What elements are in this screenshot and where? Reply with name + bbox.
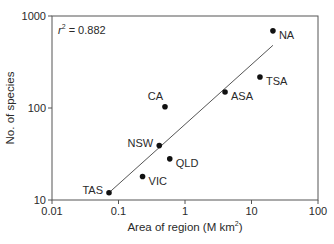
x-tick-label: 10 <box>245 205 257 217</box>
x-tick-label: 0.1 <box>111 205 126 217</box>
point-label: ASA <box>231 90 254 102</box>
data-point-ca: CA <box>148 90 168 110</box>
x-tick-label: 100 <box>309 205 327 217</box>
point-label: CA <box>148 90 164 102</box>
point-label: TSA <box>266 75 288 87</box>
point-label: VIC <box>149 175 167 187</box>
data-point-vic: VIC <box>140 174 167 187</box>
plot-border <box>52 16 318 200</box>
y-axis-label: No. of species <box>4 71 16 144</box>
point-marker <box>270 28 276 34</box>
point-label: QLD <box>176 157 199 169</box>
point-label: TAS <box>82 184 103 196</box>
point-marker <box>167 156 173 162</box>
x-axis-label: Area of region (M km2) <box>127 220 242 233</box>
axis-ticks: 0.010.1110100101001000 <box>22 10 328 217</box>
x-tick-label: 1 <box>182 205 188 217</box>
point-marker <box>162 104 168 110</box>
point-marker <box>106 190 112 196</box>
x-tick-label: 0.01 <box>41 205 62 217</box>
point-marker <box>257 74 263 80</box>
scatter-chart: 0.010.1110100101001000 TASVICNSWQLDCAASA… <box>0 0 334 244</box>
data-point-nsw: NSW <box>128 137 162 149</box>
point-marker <box>222 89 228 95</box>
regression-line <box>109 45 273 192</box>
point-marker <box>140 174 146 180</box>
plot-frame <box>52 16 318 200</box>
data-point-tsa: TSA <box>257 74 288 87</box>
data-point-qld: QLD <box>167 156 198 169</box>
data-point-asa: ASA <box>222 89 253 102</box>
data-point-tas: TAS <box>82 184 111 196</box>
point-marker <box>156 143 162 149</box>
chart-canvas: 0.010.1110100101001000 TASVICNSWQLDCAASA… <box>0 0 334 244</box>
y-tick-label: 100 <box>28 102 46 114</box>
y-tick-label: 10 <box>34 194 46 206</box>
point-label: NA <box>279 29 295 41</box>
r-squared-annotation: r2 = 0.882 <box>58 23 106 36</box>
point-label: NSW <box>128 137 154 149</box>
data-point-na: NA <box>270 28 295 41</box>
y-tick-label: 1000 <box>22 10 46 22</box>
data-points: TASVICNSWQLDCAASATSANA <box>82 28 294 196</box>
